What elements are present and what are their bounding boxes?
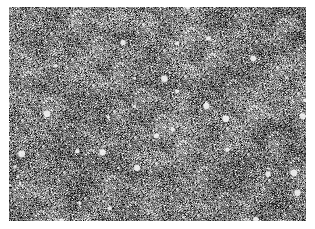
noise-texture-canvas: [9, 7, 306, 221]
texture-image: [9, 7, 306, 221]
